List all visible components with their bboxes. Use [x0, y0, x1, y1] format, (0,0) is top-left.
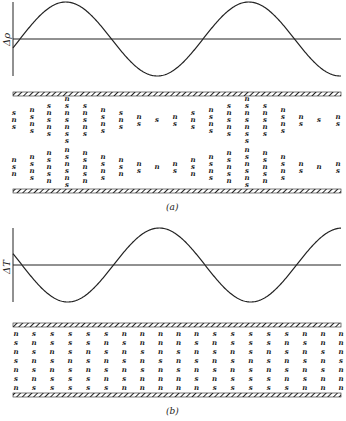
- normal-particle-glyph: n: [158, 374, 163, 383]
- normal-particle-glyph: n: [68, 356, 73, 365]
- superfluid-particle-glyph: s: [104, 365, 108, 374]
- superfluid-particle-glyph: s: [68, 338, 72, 347]
- normal-particle-glyph: n: [158, 347, 163, 356]
- superfluid-particle-glyph: s: [267, 374, 271, 383]
- caption-a: (a): [166, 202, 179, 212]
- superfluid-particle-glyph: s: [68, 365, 72, 374]
- superfluid-particle-glyph: s: [32, 383, 36, 392]
- superfluid-particle-glyph: s: [231, 338, 235, 347]
- superfluid-particle-glyph: s: [86, 329, 90, 338]
- superfluid-particle-glyph: s: [50, 329, 54, 338]
- normal-particle-glyph: n: [284, 356, 289, 365]
- superfluid-particle-glyph: s: [303, 338, 307, 347]
- superfluid-particle-glyph: s: [299, 166, 303, 175]
- wall-bottom-b: [13, 393, 341, 397]
- superfluid-particle-glyph: s: [65, 180, 69, 189]
- normal-particle-glyph: n: [154, 162, 159, 171]
- superfluid-particle-glyph: s: [140, 347, 144, 356]
- superfluid-particle-glyph: s: [195, 338, 199, 347]
- superfluid-particle-glyph: s: [104, 347, 108, 356]
- superfluid-particle-glyph: s: [173, 119, 177, 128]
- normal-particle-glyph: n: [316, 162, 321, 171]
- superfluid-particle-glyph: s: [285, 365, 289, 374]
- superfluid-particle-glyph: s: [119, 122, 123, 131]
- superfluid-particle-glyph: s: [249, 365, 253, 374]
- superfluid-particle-glyph: s: [249, 374, 253, 383]
- normal-particle-glyph: n: [140, 329, 145, 338]
- normal-particle-glyph: n: [122, 347, 127, 356]
- superfluid-particle-glyph: s: [177, 365, 181, 374]
- superfluid-particle-glyph: s: [68, 347, 72, 356]
- normal-particle-glyph: n: [140, 356, 145, 365]
- superfluid-particle-glyph: s: [299, 119, 303, 128]
- normal-particle-glyph: n: [46, 176, 51, 185]
- superfluid-particle-glyph: s: [321, 365, 325, 374]
- superfluid-particle-glyph: s: [86, 356, 90, 365]
- superfluid-particle-glyph: s: [336, 119, 340, 128]
- normal-particle-glyph: n: [262, 176, 267, 185]
- normal-particle-glyph: n: [284, 374, 289, 383]
- normal-particle-glyph: n: [338, 374, 343, 383]
- normal-particle-glyph: n: [13, 329, 18, 338]
- normal-particle-glyph: n: [158, 383, 163, 392]
- normal-particle-glyph: n: [13, 347, 18, 356]
- superfluid-particle-glyph: s: [213, 365, 217, 374]
- normal-particle-glyph: n: [320, 356, 325, 365]
- superfluid-particle-glyph: s: [267, 356, 271, 365]
- normal-particle-glyph: n: [194, 329, 199, 338]
- normal-particle-glyph: n: [212, 338, 217, 347]
- normal-particle-glyph: n: [86, 347, 91, 356]
- superfluid-particle-glyph: s: [50, 374, 54, 383]
- caption-b: (b): [166, 406, 179, 416]
- superfluid-particle-glyph: s: [50, 383, 54, 392]
- normal-particle-glyph: n: [122, 383, 127, 392]
- normal-particle-glyph: n: [140, 374, 145, 383]
- normal-particle-glyph: n: [140, 383, 145, 392]
- ylabel-b: ΔT: [1, 259, 12, 275]
- superfluid-particle-glyph: s: [195, 374, 199, 383]
- normal-particle-glyph: n: [13, 365, 18, 374]
- superfluid-particle-glyph: s: [213, 329, 217, 338]
- normal-particle-glyph: n: [320, 383, 325, 392]
- normal-particle-glyph: n: [158, 329, 163, 338]
- normal-particle-glyph: n: [140, 338, 145, 347]
- superfluid-particle-glyph: s: [68, 329, 72, 338]
- superfluid-particle-glyph: s: [245, 180, 249, 189]
- normal-particle-glyph: n: [11, 169, 16, 178]
- superfluid-particle-glyph: s: [155, 115, 159, 124]
- superfluid-particle-glyph: s: [68, 383, 72, 392]
- normal-particle-glyph: n: [104, 338, 109, 347]
- normal-particle-glyph: n: [82, 176, 87, 185]
- superfluid-particle-glyph: s: [32, 347, 36, 356]
- normal-particle-glyph: n: [158, 365, 163, 374]
- superfluid-particle-glyph: s: [321, 347, 325, 356]
- normal-particle-glyph: n: [176, 383, 181, 392]
- wall-top-a: [13, 92, 341, 96]
- superfluid-particle-glyph: s: [285, 383, 289, 392]
- normal-particle-glyph: n: [338, 329, 343, 338]
- normal-particle-glyph: n: [302, 365, 307, 374]
- normal-particle-glyph: n: [122, 365, 127, 374]
- superfluid-particle-glyph: s: [281, 126, 285, 135]
- superfluid-particle-glyph: s: [122, 356, 126, 365]
- figure: Δρ snsnsnnsnsnsnssnsnsnsnsnnsnsnssnsnsns…: [0, 0, 346, 421]
- normal-particle-glyph: n: [212, 374, 217, 383]
- normal-particle-glyph: n: [13, 383, 18, 392]
- superfluid-particle-glyph: s: [317, 115, 321, 124]
- normal-particle-glyph: n: [176, 356, 181, 365]
- superfluid-particle-glyph: s: [195, 356, 199, 365]
- superfluid-particle-glyph: s: [249, 347, 253, 356]
- superfluid-particle-glyph: s: [285, 347, 289, 356]
- superfluid-particle-glyph: s: [177, 347, 181, 356]
- panel-b: ΔT nsnsnsnsnsnsnsssnsnsssssnsssssnsnsssn…: [1, 228, 344, 416]
- normal-particle-glyph: n: [50, 365, 55, 374]
- superfluid-particle-glyph: s: [30, 126, 34, 135]
- normal-particle-glyph: n: [266, 347, 271, 356]
- normal-particle-glyph: n: [122, 329, 127, 338]
- normal-particle-glyph: n: [248, 356, 253, 365]
- superfluid-particle-glyph: s: [213, 383, 217, 392]
- normal-particle-glyph: n: [86, 365, 91, 374]
- superfluid-particle-glyph: s: [227, 129, 231, 138]
- superfluid-particle-glyph: s: [336, 166, 340, 175]
- normal-particle-glyph: n: [194, 347, 199, 356]
